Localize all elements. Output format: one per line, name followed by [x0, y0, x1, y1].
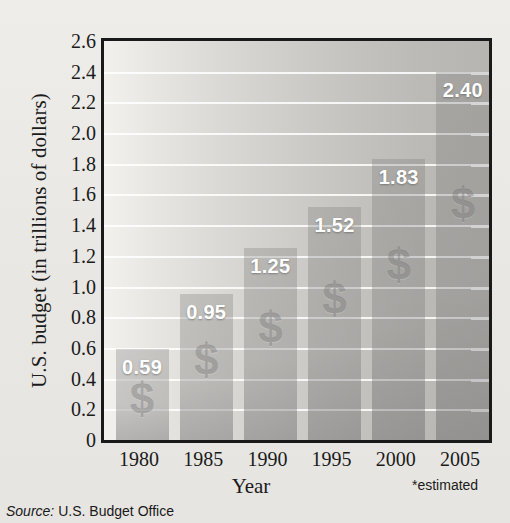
x-axis-tick-labels: 198019851990199520002005	[101, 448, 492, 476]
plot-area: $0.59$0.95$1.25$1.52$1.83$2.40	[101, 38, 492, 443]
y-axis-tick-label: 1.6	[52, 184, 96, 204]
y-axis-tick-label: 2.2	[52, 92, 96, 112]
y-axis-tick-label: 0.6	[52, 338, 96, 358]
gridline	[104, 225, 489, 227]
y-axis-tick-labels: 00.20.40.60.81.01.21.41.61.82.02.22.42.6	[52, 38, 96, 443]
dollar-sign-watermark-icon: $	[130, 377, 154, 421]
estimated-footnote: *estimated	[412, 477, 478, 493]
y-axis-tick-label: 1.0	[52, 277, 96, 297]
source-label: Source:	[6, 503, 54, 519]
bar: $1.83	[372, 159, 425, 440]
dollar-sign-watermark-icon: $	[322, 277, 346, 321]
x-axis-tick-label: 1980	[119, 448, 159, 471]
bar-value-label: 1.83	[372, 166, 425, 189]
y-axis-tick-label: 0	[52, 430, 96, 450]
dollar-sign-watermark-icon: $	[194, 338, 218, 382]
y-axis-title: U.S. budget (in trillions of dollars)	[27, 31, 52, 451]
gridline	[104, 72, 489, 74]
y-axis-tick-label: 1.2	[52, 246, 96, 266]
y-axis-tick-label: 1.8	[52, 154, 96, 174]
bar: $1.25	[244, 248, 297, 440]
source-text: U.S. Budget Office	[58, 503, 174, 519]
y-axis-tick-label: 0.8	[52, 307, 96, 327]
bar-value-label: 1.52	[308, 214, 361, 237]
dollar-sign-watermark-icon: $	[258, 306, 282, 350]
gridline	[104, 102, 489, 104]
bar-chart-figure: U.S. budget (in trillions of dollars) 00…	[0, 0, 510, 523]
gridline	[104, 133, 489, 135]
y-axis-tick-label: 2.4	[52, 62, 96, 82]
y-axis-tick-label: 0.2	[52, 399, 96, 419]
bar: $2.40	[436, 72, 489, 440]
gridline	[104, 194, 489, 196]
x-axis-title: Year	[101, 474, 401, 499]
gridline	[104, 164, 489, 166]
x-axis-tick-label: 1985	[183, 448, 223, 471]
x-axis-tick-label: 2005	[440, 448, 480, 471]
y-axis-tick-label: 0.4	[52, 369, 96, 389]
bar: $0.59	[116, 349, 169, 440]
bar-value-label: 0.59	[116, 356, 169, 379]
bar-value-label: 0.95	[180, 301, 233, 324]
bar-value-label: 1.25	[244, 255, 297, 278]
bar: $1.52	[308, 207, 361, 440]
bar: $0.95	[180, 294, 233, 440]
y-axis-tick-label: 1.4	[52, 215, 96, 235]
x-axis-tick-label: 1995	[312, 448, 352, 471]
y-axis-tick-label: 2.6	[52, 31, 96, 51]
x-axis-tick-label: 2000	[376, 448, 416, 471]
x-axis-tick-label: 1990	[247, 448, 287, 471]
bar-value-label: 2.40	[436, 79, 489, 102]
y-axis-tick-label: 2.0	[52, 123, 96, 143]
dollar-sign-watermark-icon: $	[451, 182, 475, 226]
plot-inner: $0.59$0.95$1.25$1.52$1.83$2.40	[104, 41, 489, 440]
dollar-sign-watermark-icon: $	[387, 243, 411, 287]
source-note: Source:U.S. Budget Office	[6, 503, 174, 519]
